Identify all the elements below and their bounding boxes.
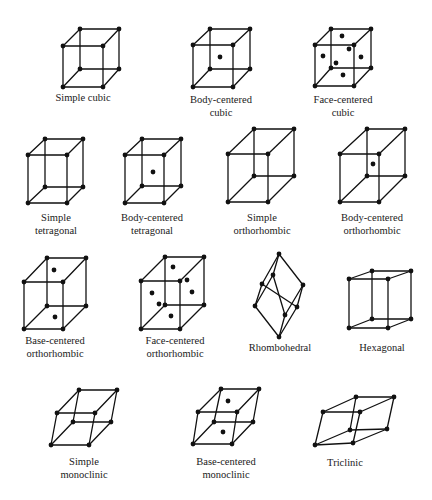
lattice-label: Simple <box>41 212 71 223</box>
lattice-point <box>358 410 363 415</box>
lattice-edge <box>63 258 86 282</box>
lattice-point <box>191 85 196 90</box>
lattice-point <box>226 152 231 157</box>
lattice-edge <box>228 129 254 154</box>
lattice-edge <box>360 397 394 412</box>
lattice-point <box>251 420 256 425</box>
lattice-simple-orthorhombic: Simpleorthorhombic <box>226 127 297 236</box>
lattice-point <box>370 269 375 274</box>
lattice-edge <box>228 176 254 202</box>
lattice-edge <box>141 257 165 281</box>
centered-atom <box>341 73 346 78</box>
lattice-point <box>347 277 352 282</box>
lattice-label: Face-centered <box>146 335 206 346</box>
lattice-edge <box>379 129 405 154</box>
lattice-point <box>277 335 282 340</box>
lattice-label: monoclinic <box>60 469 108 480</box>
lattice-edge <box>193 69 210 87</box>
lattice-point <box>78 27 83 32</box>
lattice-label: Triclinic <box>327 457 363 468</box>
centered-atom <box>347 47 352 52</box>
lattice-label: Base-centered <box>196 456 256 467</box>
lattice-point <box>386 277 391 282</box>
lattice-point <box>84 256 89 261</box>
lattice-point <box>61 85 66 90</box>
lattice-point <box>61 44 66 49</box>
lattice-edge <box>388 271 411 279</box>
lattice-label: orthorhombic <box>146 348 203 359</box>
lattice-edge <box>164 139 181 155</box>
lattice-point <box>77 388 82 393</box>
lattice-point <box>123 201 128 206</box>
lattice-point <box>43 137 48 142</box>
lattice-point <box>230 442 235 447</box>
lattice-label: orthorhombic <box>343 225 400 236</box>
lattice-point <box>139 327 144 332</box>
lattice-point <box>49 443 54 448</box>
lattice-point <box>65 153 70 158</box>
lattice-edge <box>350 397 356 430</box>
lattice-point <box>231 85 236 90</box>
lattice-label: Body-centered <box>190 94 253 105</box>
lattice-point <box>61 327 66 332</box>
lattice-edge <box>379 176 405 202</box>
lattice-point <box>226 200 231 205</box>
bravais-lattices-figure: Simple cubicBody-centeredcubicFace-cente… <box>0 0 432 500</box>
lattice-point <box>313 443 318 448</box>
centered-atom <box>371 162 376 167</box>
lattice-point <box>248 67 253 72</box>
lattice-point <box>101 44 106 49</box>
lattice-edge <box>268 176 294 202</box>
lattice-point <box>329 66 334 71</box>
lattice-point <box>179 137 184 142</box>
lattice-point <box>115 388 120 393</box>
lattice-point <box>26 153 31 158</box>
lattice-edge <box>354 68 371 86</box>
lattice-point <box>338 200 343 205</box>
lattice-point <box>409 317 414 322</box>
lattice-edge <box>353 412 360 443</box>
lattice-point <box>301 283 306 288</box>
centered-atom <box>359 55 364 60</box>
lattice-edge <box>315 430 350 445</box>
centered-atom <box>226 399 231 404</box>
lattice-point <box>191 442 196 447</box>
lattice-edge <box>279 307 297 337</box>
lattice-label: orthorhombic <box>26 348 83 359</box>
lattice-point <box>253 304 258 309</box>
lattice-edge <box>273 254 279 275</box>
lattice-point <box>212 420 217 425</box>
lattice-body-centered-cubic: Body-centeredcubic <box>190 27 253 118</box>
lattice-point <box>266 200 271 205</box>
lattice-point <box>248 27 253 32</box>
lattice-label: tetragonal <box>131 225 173 236</box>
lattice-point <box>81 185 86 190</box>
lattice-edge <box>193 29 210 45</box>
lattice-body-centered-tetragonal: Body-centeredtetragonal <box>121 137 184 236</box>
lattice-label: Base-centered <box>25 335 85 346</box>
lattice-point <box>140 137 145 142</box>
lattice-point <box>369 66 374 71</box>
centered-atom <box>185 278 190 283</box>
lattice-edge <box>297 285 303 307</box>
lattice-edge <box>387 397 394 429</box>
centered-atom <box>53 315 58 320</box>
lattice-point <box>123 153 128 158</box>
lattice-point <box>313 84 318 89</box>
lattice-edge <box>24 258 47 282</box>
lattice-edge <box>354 29 371 45</box>
lattice-edge <box>323 397 356 412</box>
lattice-label: Body-centered <box>341 212 404 223</box>
lattice-simple-cubic: Simple cubic <box>55 27 121 103</box>
lattice-point <box>403 174 408 179</box>
centered-atom <box>218 55 223 60</box>
centered-atom <box>334 61 339 66</box>
centered-atom <box>52 268 57 273</box>
lattice-point <box>45 304 50 309</box>
lattice-point <box>370 317 375 322</box>
lattice-edge <box>233 29 250 45</box>
lattice-edge <box>214 389 221 422</box>
lattice-label: Rhombohedral <box>249 342 311 353</box>
lattice-body-centered-orthorhombic: Body-centeredorthorhombic <box>338 127 408 236</box>
lattice-edge <box>315 29 331 45</box>
